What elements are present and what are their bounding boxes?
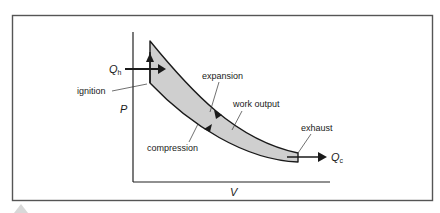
expansion-leader (210, 82, 219, 112)
heat-input-label: Qh (109, 63, 122, 76)
page-corner-mark (14, 204, 28, 213)
volume-axis-label: V (230, 186, 239, 198)
expansion-label: expansion (202, 71, 243, 81)
ignition-leader (112, 84, 147, 91)
heat-output-arrowhead-icon (318, 152, 327, 162)
pressure-axis-label: P (120, 103, 128, 115)
exhaust-leader (298, 134, 311, 153)
exhaust-label: exhaust (301, 123, 333, 133)
heat-output-label: Qc (331, 151, 344, 164)
ignition-label: ignition (77, 86, 106, 96)
compression-label: compression (147, 143, 198, 153)
work-output-label: work output (232, 99, 280, 109)
diagram-frame (13, 16, 433, 201)
pv-diagram: Qh ignition P expansion work output comp… (0, 0, 440, 213)
compression-leader (189, 124, 198, 142)
